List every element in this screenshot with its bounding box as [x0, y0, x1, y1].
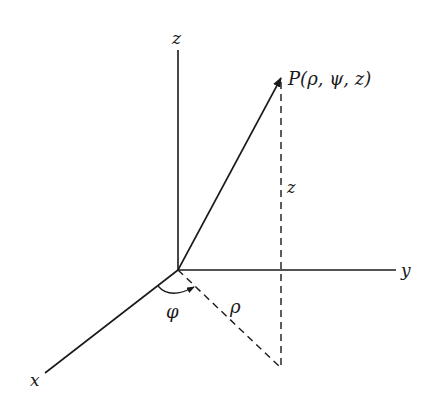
z-axis-label: z	[171, 28, 182, 48]
x-axis-label: x	[30, 370, 40, 390]
height-label: z	[286, 178, 296, 197]
cylindrical-coordinates-diagram: z y x P(ρ, ψ, z) z ρ φ	[0, 0, 434, 412]
y-axis-label: y	[400, 260, 411, 280]
x-axis	[45, 270, 178, 373]
radius-label: ρ	[229, 296, 241, 317]
angle-arc-arrow	[158, 286, 194, 293]
point-label: P(ρ, ψ, z)	[287, 68, 371, 89]
rho-dashed-line	[178, 270, 281, 368]
position-vector-arrow	[178, 78, 281, 270]
angle-label: φ	[166, 301, 179, 322]
